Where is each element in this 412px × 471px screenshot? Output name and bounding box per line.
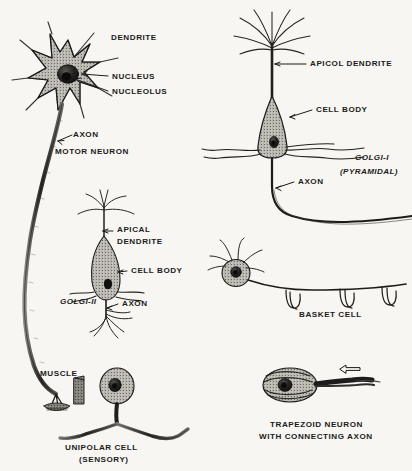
basket-cell-figure xyxy=(208,238,406,309)
neuron-illustration xyxy=(0,0,412,471)
caption-golgi-i-line2: (PYRAMIDAL) xyxy=(340,167,398,176)
label-nucleus: NUCLEUS xyxy=(112,72,155,81)
label-golgi2-cell-body: CELL BODY xyxy=(131,266,183,275)
caption-golgi-i-line1: GOLGI-I xyxy=(355,153,389,162)
caption-basket-cell: BASKET CELL xyxy=(299,310,362,319)
label-dendrite: DENDRITE xyxy=(111,33,157,42)
label-golgi2-apical-dendrite-line2: DENDRITE xyxy=(117,237,163,246)
label-pyramidal-axon: AXON xyxy=(298,177,324,186)
label-golgi2-apical-dendrite-line1: APICAL xyxy=(117,225,150,234)
caption-unipolar-cell-line2: (SENSORY) xyxy=(79,455,129,464)
caption-trapezoid-line1: TRAPEZOID NEURON xyxy=(270,420,363,429)
motor-end-plate xyxy=(44,376,84,411)
label-pyramidal-apical-dendrite: APICOL DENDRITE xyxy=(310,59,392,68)
caption-trapezoid-line2: WITH CONNECTING AXON xyxy=(259,432,373,441)
trapezoid-neuron-figure xyxy=(263,365,380,402)
label-motor-axon: AXON xyxy=(73,130,99,139)
label-nucleolus: NUCLEOLUS xyxy=(112,87,167,96)
neuron-types-plate: DENDRITE NUCLEUS NUCLEOLUS AXON MOTOR NE… xyxy=(0,0,412,471)
label-pyramidal-cell-body: CELL BODY xyxy=(316,105,368,114)
label-golgi2-axon: AXON xyxy=(122,299,148,308)
motor-neuron-figure xyxy=(12,22,118,411)
label-muscle: MUSCLE xyxy=(40,369,77,378)
golgi-ii-figure xyxy=(70,190,144,338)
caption-golgi-ii: GOLGI-II xyxy=(60,297,96,306)
caption-motor-neuron: MOTOR NEURON xyxy=(55,147,129,156)
caption-unipolar-cell-line1: UNIPOLAR CELL xyxy=(65,443,138,452)
golgi-i-pyramidal-figure xyxy=(202,10,412,224)
